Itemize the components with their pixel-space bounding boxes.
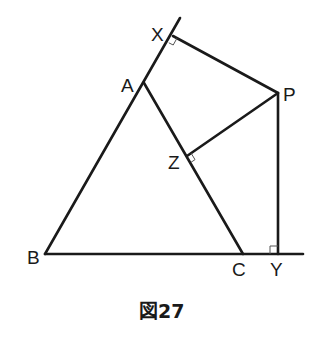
label-z: Z: [168, 152, 180, 173]
label-c: C: [232, 259, 246, 280]
label-b: B: [27, 247, 40, 268]
right-angle-marker-z: [191, 153, 195, 162]
line-ba-extended: [45, 18, 180, 254]
right-angle-marker-x: [169, 38, 177, 45]
figure-caption: 図27: [139, 300, 184, 322]
segment-xp: [173, 36, 278, 93]
label-x: X: [151, 24, 164, 45]
segment-zp: [187, 93, 278, 156]
geometry-diagram: X A P Z B C Y 図27: [0, 0, 315, 342]
label-a: A: [121, 75, 134, 96]
label-p: P: [283, 84, 296, 105]
segment-ac: [144, 83, 243, 254]
label-y: Y: [270, 259, 283, 280]
